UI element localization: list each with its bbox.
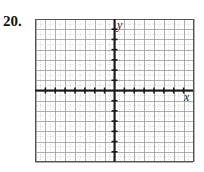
coordinate-grid: y x — [0, 0, 204, 172]
y-axis-label: y — [116, 18, 123, 32]
x-axis-label: x — [183, 90, 190, 104]
